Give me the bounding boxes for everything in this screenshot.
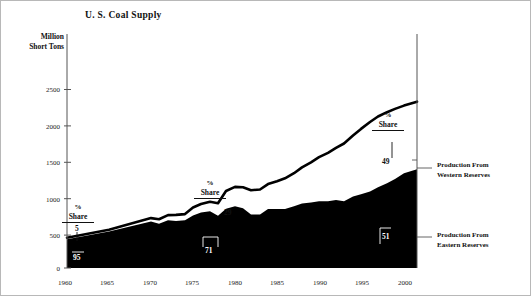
share-value-1980-eastern: 71 [205,246,213,255]
callout-western-reserves: Production From Western Reserves [437,160,490,180]
callout-eastern-line1: Production From [437,230,489,240]
callout-eastern-reserves: Production From Eastern Reserves [437,230,489,250]
share-value-1960-western: 5 [75,224,79,233]
callout-western-line2: Western Reserves [437,170,490,180]
share-value-2000-western: 49 [382,157,390,166]
area-eastern-reserves [67,169,417,268]
share-annotation-1980-pct: % [198,179,222,187]
share-annotation-2000-label: Share [372,120,404,131]
share-annotation-1980-label: Share [194,188,226,199]
share-value-2000-eastern: 51 [382,232,390,241]
share-annotation-2000-pct: % [376,111,400,119]
callout-western-line1: Production From [437,160,490,170]
share-annotation-1960-pct: % [66,203,90,211]
share-value-1960-eastern: 95 [73,253,81,262]
callout-eastern-line2: Eastern Reserves [437,240,489,250]
chart-figure: U. S. Coal Supply Million Short Tons 250… [0,0,532,297]
share-value-1980-western: 29 [224,208,232,217]
share-annotation-1960-label: Share [62,212,94,223]
